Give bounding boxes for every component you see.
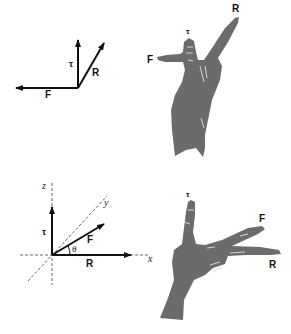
hand-bottom-tau-label: τ <box>186 190 190 199</box>
z-axis-label: z <box>41 180 46 191</box>
theta-label: θ <box>72 244 77 254</box>
hand-bottom-r-label: R <box>269 259 277 270</box>
r-label-bottom: R <box>86 258 94 269</box>
x-axis-label: x <box>147 253 153 264</box>
f-label: F <box>45 89 51 100</box>
f-vector-arrow-bottom <box>52 224 104 255</box>
y-axis-label: y <box>103 197 109 208</box>
r-label: R <box>92 67 100 78</box>
torque-right-hand-rule-figure: τ R F τ R F z y x τ F R θ τ F R <box>0 0 291 334</box>
theta-angle-arc <box>68 246 70 255</box>
tau-label: τ <box>69 59 73 69</box>
hand-shape-top <box>157 17 239 157</box>
r-vector-arrow <box>78 43 104 88</box>
tau-label-bottom: τ <box>42 227 46 237</box>
top-vector-diagram: τ R F <box>16 40 104 100</box>
top-hand-illustration: τ R F <box>147 3 240 157</box>
hand-top-r-label: R <box>232 3 240 14</box>
y-axis <box>28 196 107 281</box>
bottom-hand-illustration: τ F R <box>160 190 281 320</box>
hand-top-tau-label: τ <box>186 27 190 36</box>
bottom-axes-diagram: z y x τ F R θ <box>20 180 153 285</box>
f-label-bottom: F <box>87 234 93 245</box>
hand-top-f-label: F <box>147 54 153 65</box>
hand-bottom-f-label: F <box>259 213 265 224</box>
